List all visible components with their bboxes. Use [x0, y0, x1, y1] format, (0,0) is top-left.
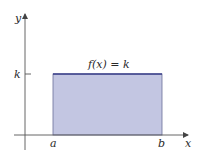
constant-function-diagram: y x k a b f(x) = k	[0, 0, 199, 161]
x-axis-label: x	[185, 137, 192, 150]
a-label: a	[50, 137, 57, 150]
k-label: k	[14, 68, 21, 81]
b-label: b	[158, 137, 165, 150]
area-under-curve	[53, 74, 162, 135]
y-axis-label: y	[14, 12, 22, 25]
function-label: f(x) = k	[87, 58, 130, 71]
